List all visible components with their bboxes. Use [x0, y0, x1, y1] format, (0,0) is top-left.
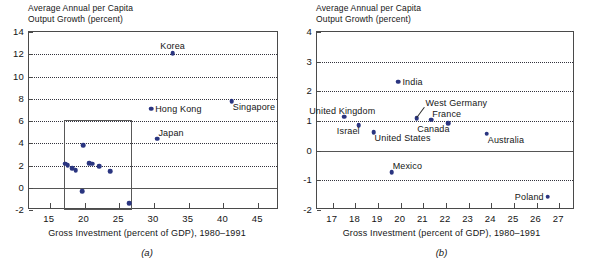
data-point: [90, 162, 95, 167]
x-tick-label: 25: [113, 213, 124, 224]
y-tick-mark: [29, 77, 33, 78]
y-tick-label: 3: [295, 55, 312, 66]
y-tick-label: -2: [2, 204, 24, 215]
point-label-australia: Australia: [488, 135, 524, 145]
data-point-poland: [546, 194, 551, 199]
plot-area-b: United KingdomIsraelUnited StatesIndiaMe…: [316, 31, 574, 209]
x-tick-label: 27: [553, 213, 564, 224]
y-tick-mark: [317, 151, 321, 152]
leader-line: [416, 107, 424, 118]
x-tick-mark: [469, 203, 470, 208]
point-label-israel: Israel: [337, 126, 360, 136]
gridline: [29, 99, 277, 100]
x-tick-label: 24: [485, 213, 496, 224]
y-tick-label: 10: [2, 70, 24, 81]
point-label-singapore: Singapore: [233, 102, 275, 112]
gridline: [29, 77, 277, 78]
data-point-korea: [170, 51, 175, 56]
x-tick-mark: [514, 203, 515, 208]
x-tick-mark: [491, 203, 492, 208]
y-tick-label: 2: [295, 85, 312, 96]
y-tick-label: 14: [2, 26, 24, 37]
data-point: [73, 168, 78, 173]
y-tick-label: 4: [295, 26, 312, 37]
x-tick-label: 30: [148, 213, 159, 224]
figure-container: Average Annual per Capita Output Growth …: [0, 0, 589, 267]
y-tick-mark: [29, 121, 33, 122]
x-tick-mark: [223, 203, 224, 208]
gridline: [317, 180, 573, 181]
y-tick-mark: [317, 91, 321, 92]
x-axis-title-b: Gross Investment (percent of GDP), 1980–…: [294, 228, 589, 238]
data-point: [127, 201, 132, 206]
point-label-hong-kong: Hong Kong: [155, 104, 201, 114]
chart-panel-b: Average Annual per Capita Output Growth …: [294, 0, 589, 267]
y-tick-mark: [29, 143, 33, 144]
y-tick-mark: [29, 188, 33, 189]
y-tick-mark: [29, 32, 33, 33]
y-tick-label: 12: [2, 48, 24, 59]
x-tick-mark: [50, 203, 51, 208]
panel-caption-a: (a): [0, 247, 294, 258]
y-tick-label: 0: [295, 144, 312, 155]
point-label-india: India: [402, 77, 422, 87]
gridline: [317, 121, 573, 122]
point-label-france: France: [432, 109, 461, 119]
x-tick-mark: [446, 203, 447, 208]
x-tick-mark: [333, 203, 334, 208]
x-tick-mark: [258, 203, 259, 208]
zero-axis-line: [317, 151, 573, 152]
x-tick-label: 17: [326, 213, 337, 224]
y-tick-label: -1: [295, 174, 312, 185]
x-tick-label: 21: [417, 213, 428, 224]
x-tick-mark: [378, 203, 379, 208]
x-tick-label: 20: [394, 213, 405, 224]
x-tick-label: 26: [530, 213, 541, 224]
point-label-japan: Japan: [158, 128, 183, 138]
x-tick-mark: [154, 203, 155, 208]
y-tick-label: 4: [2, 137, 24, 148]
point-label-poland: Poland: [515, 192, 544, 202]
y-tick-mark: [29, 210, 33, 211]
data-point-india: [396, 80, 401, 85]
y-tick-label: 2: [2, 159, 24, 170]
gridline: [29, 54, 277, 55]
panel-caption-b: (b): [294, 247, 589, 258]
y-tick-mark: [29, 99, 33, 100]
y-tick-mark: [317, 62, 321, 63]
gridline: [317, 91, 573, 92]
point-label-korea: Korea: [160, 41, 185, 51]
x-tick-label: 45: [252, 213, 263, 224]
data-point: [97, 164, 102, 169]
x-tick-mark: [423, 203, 424, 208]
gridline: [317, 62, 573, 63]
y-tick-mark: [317, 210, 321, 211]
y-tick-mark: [317, 180, 321, 181]
x-tick-mark: [355, 203, 356, 208]
data-point: [80, 189, 85, 194]
x-axis-title-a: Gross Investment (percent of GDP), 1980–…: [0, 228, 294, 238]
y-tick-mark: [317, 121, 321, 122]
x-tick-mark: [189, 203, 190, 208]
y-axis-title-b: Average Annual per Capita Output Growth …: [316, 3, 421, 25]
y-tick-mark: [29, 54, 33, 55]
plot-area-a: KoreaSingaporeHong KongJapan: [28, 31, 278, 209]
y-tick-label: 8: [2, 92, 24, 103]
x-tick-label: 15: [43, 213, 54, 224]
point-label-united-states: United States: [375, 133, 431, 143]
y-axis-title-a: Average Annual per Capita Output Growth …: [28, 3, 133, 25]
x-tick-label: 22: [440, 213, 451, 224]
point-label-united-kingdom: United Kingdom: [309, 106, 375, 116]
x-tick-mark: [401, 203, 402, 208]
data-point-hong-kong: [149, 106, 154, 111]
x-tick-label: 25: [507, 213, 518, 224]
x-tick-label: 20: [78, 213, 89, 224]
data-point: [108, 169, 113, 174]
y-tick-label: 1: [295, 115, 312, 126]
x-tick-label: 35: [182, 213, 193, 224]
x-tick-label: 40: [217, 213, 228, 224]
y-tick-mark: [29, 166, 33, 167]
y-tick-label: 6: [2, 115, 24, 126]
x-tick-mark: [559, 203, 560, 208]
point-label-west-germany: West Germany: [426, 98, 488, 108]
